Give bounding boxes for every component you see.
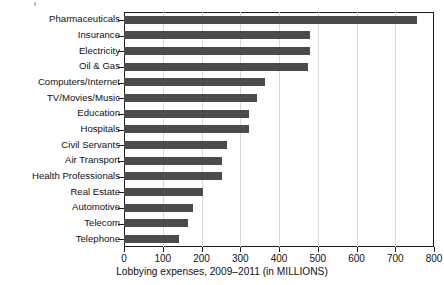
y-axis-tick — [118, 130, 124, 131]
category-label: TV/Movies/Music — [0, 93, 120, 103]
category-axis-labels: PharmaceuticalsInsuranceElectricityOil &… — [0, 12, 120, 247]
bars-layer — [124, 12, 434, 247]
y-axis-tick — [118, 36, 124, 37]
y-axis-tick — [118, 67, 124, 68]
bar — [124, 157, 222, 165]
category-label: Health Professionals — [0, 171, 120, 181]
y-axis-tick — [118, 192, 124, 193]
x-axis-tick — [124, 247, 125, 252]
x-axis-tick-label: 200 — [193, 253, 210, 264]
y-axis-tick — [118, 161, 124, 162]
category-label: Automotive — [0, 202, 120, 212]
bar — [124, 16, 417, 24]
x-axis-tick — [202, 247, 203, 252]
y-axis-tick — [118, 114, 124, 115]
bar — [124, 78, 265, 86]
bar-row — [124, 28, 434, 44]
x-axis-tick — [163, 247, 164, 252]
category-label: Pharmaceuticals — [0, 14, 120, 24]
y-axis-tick — [118, 224, 124, 225]
bar — [124, 204, 193, 212]
bar — [124, 188, 203, 196]
x-axis-tick — [279, 247, 280, 252]
bar — [124, 94, 257, 102]
bar-row — [124, 43, 434, 59]
x-axis-tick-label: 300 — [232, 253, 249, 264]
y-axis-tick — [118, 20, 124, 21]
bar-row — [124, 169, 434, 185]
bar — [124, 63, 308, 71]
y-axis-tick — [118, 83, 124, 84]
y-axis-tick — [118, 51, 124, 52]
bar — [124, 141, 227, 149]
category-label: Telephone — [0, 234, 120, 244]
category-label: Real Estate — [0, 187, 120, 197]
category-label: Electricity — [0, 46, 120, 56]
x-axis-tick-label: 0 — [121, 253, 127, 264]
bar — [124, 172, 222, 180]
bar-row — [124, 75, 434, 91]
x-axis-tick — [395, 247, 396, 252]
x-axis-tick — [318, 247, 319, 252]
x-axis-tick-label: 100 — [154, 253, 171, 264]
x-axis-tick-label: 400 — [271, 253, 288, 264]
bar-chart: PharmaceuticalsInsuranceElectricityOil &… — [0, 0, 444, 285]
x-axis-tick — [240, 247, 241, 252]
bar-row — [124, 106, 434, 122]
bar-row — [124, 200, 434, 216]
x-axis-tick — [357, 247, 358, 252]
category-label: Civil Servants — [0, 140, 120, 150]
category-label: Oil & Gas — [0, 61, 120, 71]
category-label: Computers/Internet — [0, 77, 120, 87]
y-axis-tick — [118, 98, 124, 99]
bar-row — [124, 122, 434, 138]
bar-row — [124, 216, 434, 232]
x-axis-tick-label: 600 — [348, 253, 365, 264]
x-axis-tick-label: 700 — [387, 253, 404, 264]
bar-row — [124, 137, 434, 153]
bar-row — [124, 59, 434, 75]
bar — [124, 31, 310, 39]
bar — [124, 235, 179, 243]
x-axis-tick-label: 500 — [309, 253, 326, 264]
bar — [124, 110, 249, 118]
bar — [124, 219, 188, 227]
x-axis-tick-label: 800 — [426, 253, 443, 264]
scan-artifact — [34, 2, 36, 6]
category-label: Education — [0, 108, 120, 118]
category-label: Insurance — [0, 30, 120, 40]
category-label: Telecom — [0, 218, 120, 228]
y-axis-tick — [118, 177, 124, 178]
bar-row — [124, 12, 434, 28]
category-label: Air Transport — [0, 155, 120, 165]
category-label: Hospitals — [0, 124, 120, 134]
bar-row — [124, 184, 434, 200]
y-axis-tick — [118, 145, 124, 146]
y-axis-tick — [118, 208, 124, 209]
x-axis-tick — [434, 247, 435, 252]
y-axis-tick — [118, 239, 124, 240]
bar-row — [124, 231, 434, 247]
bar-row — [124, 90, 434, 106]
x-axis: 0100200300400500600700800 — [0, 247, 444, 267]
bar — [124, 125, 249, 133]
x-axis-title: Lobbying expenses, 2009–2011 (in MILLION… — [0, 266, 444, 277]
bar — [124, 47, 310, 55]
bar-row — [124, 153, 434, 169]
